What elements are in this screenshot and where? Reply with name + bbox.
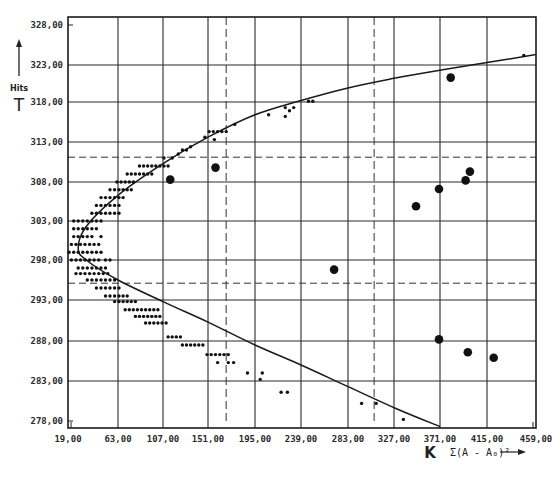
data-point-small (284, 115, 287, 118)
data-point-small (74, 258, 77, 261)
data-point-large (464, 348, 473, 357)
data-point-small (72, 227, 75, 230)
data-point-small (117, 286, 120, 289)
data-point-small (117, 196, 120, 199)
data-point-small (83, 258, 86, 261)
data-point-small (214, 353, 217, 356)
data-point-small (90, 227, 93, 230)
data-point-small (232, 361, 235, 364)
data-point-small (113, 212, 116, 215)
y-tick-label: 298,00 (30, 255, 63, 265)
data-point-large (330, 265, 339, 274)
data-point-small (142, 172, 145, 175)
data-point-small (233, 123, 236, 126)
data-point-small (108, 212, 111, 215)
data-point-small (150, 164, 153, 167)
data-point-small (113, 278, 116, 281)
data-point-small (95, 266, 98, 269)
data-point-small (99, 204, 102, 207)
data-point-small (99, 266, 102, 269)
data-point-small (522, 54, 525, 57)
data-point-small (213, 138, 216, 141)
data-point-small (72, 251, 75, 254)
data-point-small (142, 315, 145, 318)
data-point-small (97, 258, 100, 261)
data-point-small (227, 361, 230, 364)
y-axis-label: Hits T (10, 39, 28, 115)
data-point-small (77, 266, 80, 269)
small-dot-series (67, 54, 525, 421)
y-tick-label: 318,00 (30, 97, 63, 107)
data-point-small (311, 100, 314, 103)
data-point-small (90, 251, 93, 254)
data-point-small (146, 172, 149, 175)
data-point-small (113, 294, 116, 297)
data-point-small (90, 235, 93, 238)
data-point-small (154, 164, 157, 167)
data-point-small (115, 180, 118, 183)
data-point-small (77, 227, 80, 230)
data-point-small (74, 243, 77, 246)
data-point-small (126, 294, 129, 297)
data-point-small (150, 315, 153, 318)
data-point-large (435, 185, 444, 194)
data-point-small (156, 308, 159, 311)
data-point-small (95, 219, 98, 222)
data-point-small (360, 402, 363, 405)
data-point-small (164, 321, 167, 324)
data-point-small (154, 315, 157, 318)
data-point-small (227, 353, 230, 356)
data-point-small (132, 308, 135, 311)
data-point-small (113, 196, 116, 199)
data-point-small (140, 308, 143, 311)
data-point-small (158, 315, 161, 318)
y-tick-label: 288,00 (30, 336, 63, 346)
y-tick-label: 293,00 (30, 295, 63, 305)
data-point-small (108, 188, 111, 191)
x-tick-label: 63,00 (104, 434, 131, 444)
y-tick-label: 328,00 (30, 20, 63, 30)
data-point-small (128, 180, 131, 183)
data-point-small (144, 308, 147, 311)
x-axis-label: K Σ(A - A₀)² (424, 444, 526, 462)
x-tick-label: 371,00 (424, 434, 457, 444)
data-point-small (88, 258, 91, 261)
data-point-small (99, 212, 102, 215)
data-point-small (77, 251, 80, 254)
data-point-small (220, 130, 223, 133)
y-tick-label: 278,00 (30, 416, 63, 426)
data-point-small (81, 227, 84, 230)
x-tick-label: 459,00 (520, 434, 552, 444)
data-point-small (104, 196, 107, 199)
data-point-small (86, 235, 89, 238)
data-point-small (86, 278, 89, 281)
data-point-small (138, 172, 141, 175)
data-point-small (67, 251, 70, 254)
y-tick-label: 323,00 (30, 60, 63, 70)
data-point-small (261, 371, 264, 374)
data-point-small (121, 188, 124, 191)
data-point-large (412, 202, 421, 211)
data-point-small (90, 278, 93, 281)
data-point-small (104, 294, 107, 297)
data-point-small (70, 258, 73, 261)
data-point-small (83, 272, 86, 275)
data-point-large (489, 354, 498, 363)
data-point-small (121, 196, 124, 199)
y-tick-label: 313,00 (30, 137, 63, 147)
y-axis-ticks: 328,00323,00318,00313,00308,00303,00298,… (30, 20, 73, 426)
x-axis-label-symbol: K (424, 444, 437, 462)
data-point-small (130, 188, 133, 191)
data-point-small (90, 266, 93, 269)
data-point-small (148, 308, 151, 311)
data-point-small (216, 361, 219, 364)
data-point-small (97, 243, 100, 246)
data-point-small (70, 243, 73, 246)
data-point-small (126, 172, 129, 175)
up-arrowhead-icon (16, 39, 22, 47)
data-point-large (446, 73, 455, 82)
data-point-small (179, 335, 182, 338)
plot-frame (68, 17, 536, 428)
data-point-small (201, 343, 204, 346)
data-point-large (466, 167, 475, 176)
